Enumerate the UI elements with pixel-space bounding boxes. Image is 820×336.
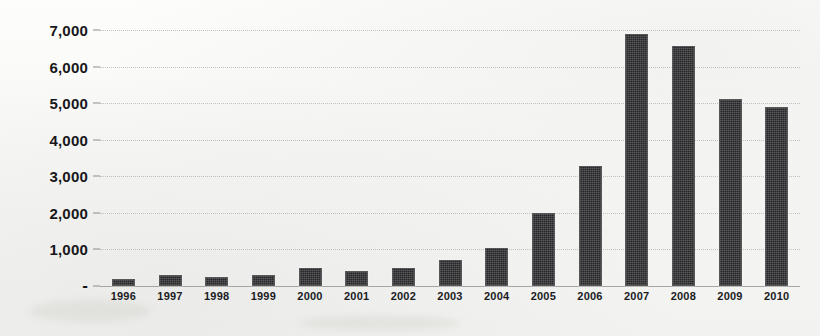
bar-2002[interactable] [392, 268, 415, 286]
bars-layer [100, 30, 800, 286]
bar-2006[interactable] [579, 166, 602, 286]
bar-1997[interactable] [159, 275, 182, 286]
bar-slot [532, 30, 555, 286]
x-axis-label-2009: 2009 [717, 290, 742, 302]
x-axis-label-2002: 2002 [391, 290, 416, 302]
bar-1996[interactable] [112, 279, 135, 286]
bar-2008[interactable] [672, 46, 695, 286]
y-axis-label-2000: 2,000 [18, 204, 88, 221]
bar-2003[interactable] [439, 260, 462, 286]
y-axis-label-4000: 4,000 [18, 131, 88, 148]
x-axis-ticks: 1996199719981999200020012002200320042005… [100, 290, 800, 312]
x-axis-label-2003: 2003 [437, 290, 462, 302]
y-axis-label-0: - [18, 276, 88, 296]
bar-slot [579, 30, 602, 286]
x-axis-label-2005: 2005 [531, 290, 556, 302]
bar-2001[interactable] [345, 271, 368, 286]
plot-area: -1,0002,0003,0004,0005,0006,0007,000 [100, 30, 800, 286]
bar-2007[interactable] [625, 34, 648, 286]
bar-slot [205, 30, 228, 286]
bar-slot [392, 30, 415, 286]
bar-1999[interactable] [252, 275, 275, 286]
bar-slot [625, 30, 648, 286]
bar-slot [345, 30, 368, 286]
x-axis-label-2008: 2008 [671, 290, 696, 302]
x-axis-label-1997: 1997 [157, 290, 182, 302]
bar-slot [439, 30, 462, 286]
y-tick-mark-6000 [93, 66, 100, 67]
y-tick-mark-2000 [93, 212, 100, 213]
bar-slot [159, 30, 182, 286]
x-axis-label-1998: 1998 [204, 290, 229, 302]
y-tick-mark-0 [93, 286, 100, 287]
bar-slot [719, 30, 742, 286]
y-axis-label-7000: 7,000 [18, 22, 88, 39]
bar-2010[interactable] [765, 107, 788, 286]
bar-chart-figure: -1,0002,0003,0004,0005,0006,0007,000 199… [0, 0, 820, 336]
x-axis-label-1999: 1999 [251, 290, 276, 302]
bar-slot [672, 30, 695, 286]
bar-2005[interactable] [532, 213, 555, 286]
bar-slot [112, 30, 135, 286]
x-axis-label-2000: 2000 [297, 290, 322, 302]
y-tick-mark-3000 [93, 176, 100, 177]
y-tick-mark-4000 [93, 139, 100, 140]
scan-artifact [300, 316, 460, 330]
x-axis-label-2006: 2006 [577, 290, 602, 302]
y-axis-label-5000: 5,000 [18, 95, 88, 112]
bar-2004[interactable] [485, 248, 508, 286]
y-tick-mark-5000 [93, 103, 100, 104]
bar-2009[interactable] [719, 99, 742, 286]
bar-slot [252, 30, 275, 286]
x-axis-label-2004: 2004 [484, 290, 509, 302]
y-axis-label-1000: 1,000 [18, 241, 88, 258]
x-axis-label-2001: 2001 [344, 290, 369, 302]
bar-1998[interactable] [205, 277, 228, 286]
gridline-0 [100, 286, 800, 287]
x-axis-label-2010: 2010 [764, 290, 789, 302]
bar-2000[interactable] [299, 268, 322, 286]
bar-slot [485, 30, 508, 286]
x-axis-label-1996: 1996 [111, 290, 136, 302]
y-tick-mark-1000 [93, 249, 100, 250]
x-axis-label-2007: 2007 [624, 290, 649, 302]
y-axis-label-3000: 3,000 [18, 168, 88, 185]
y-tick-mark-7000 [93, 30, 100, 31]
bar-slot [765, 30, 788, 286]
y-axis-label-6000: 6,000 [18, 58, 88, 75]
bar-slot [299, 30, 322, 286]
